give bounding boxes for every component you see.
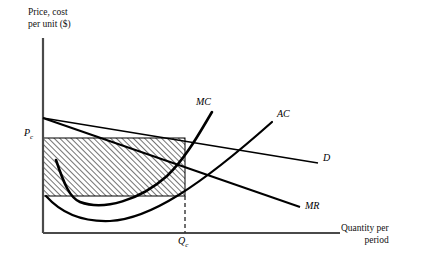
quantity-tick-label: Qc [178,235,188,249]
marginal-revenue-label: MR [305,200,319,211]
diagram-canvas [0,0,444,260]
y-axis-title-line2: per unit ($) [28,18,71,30]
price-tick-label: Pc [24,127,33,141]
y-axis-title: Price, cost per unit ($) [28,6,71,30]
y-axis-title-line1: Price, cost [28,6,71,18]
x-axis-title-line1: Quantity per [341,222,389,234]
x-axis-title-line2: period [341,234,389,246]
x-axis-title: Quantity per period [341,222,389,246]
quantity-tick-subscript: c [185,241,188,249]
profit-rectangle [43,138,185,196]
demand-label: D [323,152,330,163]
average-cost-label: AC [277,108,290,119]
price-tick-subscript: c [30,133,33,141]
marginal-cost-label: MC [196,96,211,107]
